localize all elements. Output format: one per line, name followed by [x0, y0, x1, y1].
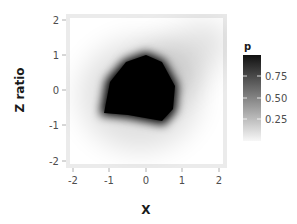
x-tick-label: 2: [216, 175, 222, 186]
x-tick-label: -1: [104, 175, 114, 186]
x-tick-label: 1: [179, 175, 185, 186]
legend-label: 0.75: [265, 71, 287, 82]
y-axis-title: Z ratio: [13, 68, 27, 113]
y-tick-label: 1: [53, 50, 59, 61]
x-tick-label: -2: [68, 175, 78, 186]
legend-title: p: [244, 41, 251, 52]
heatmap-chart: 2 1 0 -1 -2 -2 -1 0 1 2 X Z ratio p 0.75…: [0, 0, 297, 224]
y-tick-label: -2: [49, 156, 59, 167]
legend-label: 0.25: [265, 114, 287, 125]
x-axis: [73, 168, 219, 172]
legend: p 0.75 0.50 0.25: [243, 41, 287, 141]
y-tick-label: 0: [53, 85, 59, 96]
y-tick-label: -1: [49, 120, 59, 131]
x-tick-label: 0: [143, 175, 149, 186]
y-tick-label: 2: [53, 15, 59, 26]
plot-panel: [66, 8, 240, 168]
x-axis-title: X: [141, 203, 151, 217]
y-axis: [62, 20, 66, 161]
legend-label: 0.50: [265, 93, 287, 104]
